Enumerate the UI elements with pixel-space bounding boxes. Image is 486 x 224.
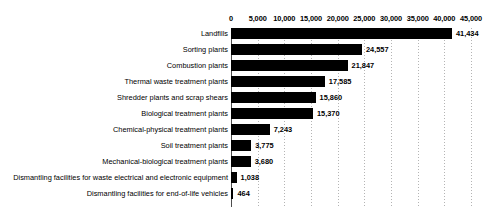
bar-row: Biological treatment plants15,370 xyxy=(0,108,486,119)
value-label: 7,243 xyxy=(274,124,293,135)
bar-chart: 05,00010,00015,00020,00025,00030,00035,0… xyxy=(0,0,486,224)
x-tick-label-0: 0 xyxy=(229,14,233,23)
category-label: Mechanical-biological treatment plants xyxy=(102,156,228,167)
bar-row: Soil treatment plants3,775 xyxy=(0,140,486,151)
bar-row: Mechanical-biological treatment plants3,… xyxy=(0,156,486,167)
category-label: Soil treatment plants xyxy=(161,140,228,151)
category-label: Combustion plants xyxy=(167,60,228,71)
value-label: 3,680 xyxy=(255,156,274,167)
x-axis-ticks: 05,00010,00015,00020,00025,00030,00035,0… xyxy=(231,14,471,26)
x-tick-label-10000: 10,000 xyxy=(273,14,295,23)
value-label: 15,860 xyxy=(320,92,343,103)
x-tick-label-35000: 35,000 xyxy=(407,14,429,23)
category-label: Thermal waste treatment plants xyxy=(124,76,228,87)
bar xyxy=(231,172,237,183)
value-label: 41,434 xyxy=(456,28,479,39)
bar xyxy=(231,108,313,119)
x-tick-label-25000: 25,000 xyxy=(353,14,375,23)
category-label: Biological treatment plants xyxy=(141,108,228,119)
category-label: Sorting plants xyxy=(183,44,228,55)
x-tick-label-15000: 15,000 xyxy=(300,14,322,23)
bar-rows: Landfills41,434Sorting plants24,557Combu… xyxy=(0,28,486,213)
value-label: 21,847 xyxy=(352,60,375,71)
bar xyxy=(231,140,251,151)
x-tick-label-5000: 5,000 xyxy=(249,14,267,23)
category-label: Dismantling facilities for waste electri… xyxy=(13,172,228,183)
bar xyxy=(231,156,251,167)
value-label: 3,775 xyxy=(255,140,274,151)
bar xyxy=(231,60,348,71)
value-label: 17,585 xyxy=(329,76,352,87)
bar xyxy=(231,28,452,39)
bar xyxy=(231,124,270,135)
bar-row: Sorting plants24,557 xyxy=(0,44,486,55)
x-tick-label-40000: 40,000 xyxy=(433,14,455,23)
value-label: 15,370 xyxy=(317,108,340,119)
bar-row: Shredder plants and scrap shears15,860 xyxy=(0,92,486,103)
value-label: 464 xyxy=(237,188,249,199)
bar-row: Thermal waste treatment plants17,585 xyxy=(0,76,486,87)
bar-row: Combustion plants21,847 xyxy=(0,60,486,71)
x-tick-label-45000: 45,000 xyxy=(460,14,482,23)
bar-row: Chemical-physical treatment plants7,243 xyxy=(0,124,486,135)
bar xyxy=(231,44,362,55)
x-tick-label-30000: 30,000 xyxy=(380,14,402,23)
value-label: 24,557 xyxy=(366,44,389,55)
bar xyxy=(231,188,233,199)
category-label: Chemical-physical treatment plants xyxy=(113,124,228,135)
category-label: Landfills xyxy=(201,28,228,39)
bar xyxy=(231,76,325,87)
bar-row: Landfills41,434 xyxy=(0,28,486,39)
category-label: Shredder plants and scrap shears xyxy=(117,92,228,103)
bar-row: Dismantling facilities for waste electri… xyxy=(0,172,486,183)
bar-row: Dismantling facilities for end-of-life v… xyxy=(0,188,486,199)
value-label: 1,038 xyxy=(241,172,260,183)
x-tick-label-20000: 20,000 xyxy=(327,14,349,23)
category-label: Dismantling facilities for end-of-life v… xyxy=(87,188,228,199)
bar xyxy=(231,92,316,103)
